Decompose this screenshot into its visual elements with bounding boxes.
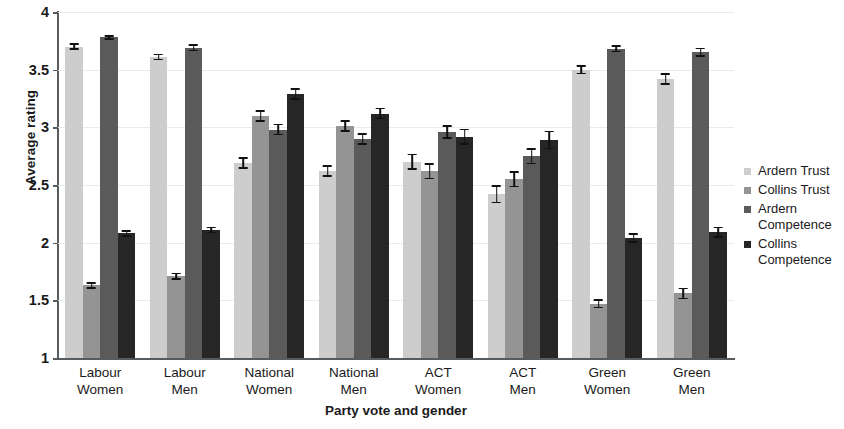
- x-tick-line-2: Women: [227, 381, 312, 398]
- bar: [403, 162, 421, 358]
- x-tick-line-1: ACT: [425, 365, 452, 380]
- x-tick-label: GreenWomen: [565, 364, 650, 398]
- x-tick-line-2: Men: [312, 381, 397, 398]
- error-bar: [295, 88, 297, 100]
- error-bar: [598, 299, 600, 308]
- bar: [83, 285, 101, 358]
- error-bar: [344, 120, 346, 132]
- y-tick-label: 2.5: [29, 177, 49, 193]
- error-bar: [531, 148, 533, 164]
- bar: [456, 137, 474, 358]
- y-tick-mark: [53, 358, 58, 360]
- chart-legend: Ardern TrustCollins TrustArdern Competen…: [744, 163, 844, 271]
- x-tick-line-1: Green: [673, 365, 711, 380]
- error-bar: [682, 288, 684, 300]
- bar: [523, 156, 541, 358]
- y-tick-label: 1.5: [29, 292, 49, 308]
- error-bar: [411, 154, 413, 170]
- error-bar: [496, 185, 498, 203]
- x-tick-line-1: Labour: [79, 365, 121, 380]
- x-tick-line-2: Women: [565, 381, 650, 398]
- x-tick-label: LabourMen: [143, 364, 228, 398]
- bar: [572, 70, 590, 358]
- error-bar: [242, 157, 244, 169]
- bar: [287, 94, 305, 358]
- bar: [438, 132, 456, 358]
- bar: [607, 49, 625, 358]
- bar: [269, 130, 287, 358]
- legend-item[interactable]: Collins Trust: [744, 182, 844, 198]
- error-bar: [717, 227, 719, 239]
- error-bar: [260, 110, 262, 122]
- x-tick-label: LabourWomen: [58, 364, 143, 398]
- bar-group: [319, 12, 389, 358]
- legend-item[interactable]: Ardern Trust: [744, 163, 844, 179]
- error-bar: [615, 45, 617, 52]
- y-tick-label: 3.5: [29, 62, 49, 78]
- bar-chart: Average rating 11.522.533.54 LabourWomen…: [0, 0, 844, 429]
- bar: [150, 57, 168, 358]
- bar: [692, 52, 710, 358]
- x-tick-label: GreenMen: [650, 364, 735, 398]
- y-tick-label: 3: [41, 119, 49, 135]
- bar-group: [488, 12, 558, 358]
- bar: [319, 171, 337, 358]
- y-tick-mark: [53, 300, 58, 302]
- bar: [540, 140, 558, 358]
- y-tick-mark: [53, 185, 58, 187]
- bar: [488, 194, 506, 358]
- bar-group: [234, 12, 304, 358]
- legend-swatch-icon: [744, 206, 751, 213]
- x-axis-line: [57, 358, 735, 360]
- error-bar: [446, 125, 448, 139]
- x-tick-line-1: ACT: [509, 365, 536, 380]
- x-tick-line-2: Men: [481, 381, 566, 398]
- y-tick-mark: [53, 127, 58, 129]
- x-tick-label: NationalMen: [312, 364, 397, 398]
- error-bar: [633, 233, 635, 242]
- y-tick-mark: [53, 12, 58, 14]
- y-tick-label: 4: [41, 4, 49, 20]
- x-tick-label: NationalWomen: [227, 364, 312, 398]
- error-bar: [362, 133, 364, 145]
- error-bar: [665, 73, 667, 85]
- bar: [657, 79, 675, 358]
- bar: [336, 126, 354, 358]
- bar-group: [403, 12, 473, 358]
- legend-swatch-icon: [744, 187, 751, 194]
- x-tick-label: ACTWomen: [396, 364, 481, 398]
- error-bar: [464, 129, 466, 145]
- error-bar: [175, 273, 177, 280]
- bar: [625, 238, 643, 358]
- bar: [421, 171, 439, 358]
- bar: [185, 48, 203, 358]
- y-tick-mark: [53, 243, 58, 245]
- bar: [167, 276, 185, 358]
- error-bar: [429, 163, 431, 179]
- error-bar: [108, 35, 110, 40]
- x-axis-title: Party vote and gender: [58, 403, 734, 418]
- legend-swatch-icon: [744, 241, 751, 248]
- x-tick-line-2: Men: [650, 381, 735, 398]
- x-tick-line-1: National: [244, 365, 294, 380]
- legend-swatch-icon: [744, 168, 751, 175]
- legend-item[interactable]: Ardern Competence: [744, 201, 844, 233]
- error-bar: [548, 131, 550, 149]
- error-bar: [327, 165, 329, 177]
- bar: [674, 293, 692, 358]
- bar: [234, 163, 252, 358]
- bar: [65, 47, 83, 358]
- bar: [371, 114, 389, 359]
- x-tick-line-1: National: [329, 365, 379, 380]
- error-bar: [700, 48, 702, 57]
- y-tick-label: 2: [41, 235, 49, 251]
- bar: [252, 116, 270, 358]
- bar-group: [150, 12, 220, 358]
- legend-item[interactable]: Collins Competence: [744, 236, 844, 268]
- bar: [505, 179, 523, 358]
- x-tick-line-1: Green: [588, 365, 626, 380]
- error-bar: [126, 230, 128, 237]
- plot-area: 11.522.533.54 LabourWomenLabourMenNation…: [58, 12, 734, 358]
- legend-label: Ardern Trust: [758, 163, 830, 179]
- error-bar: [158, 54, 160, 61]
